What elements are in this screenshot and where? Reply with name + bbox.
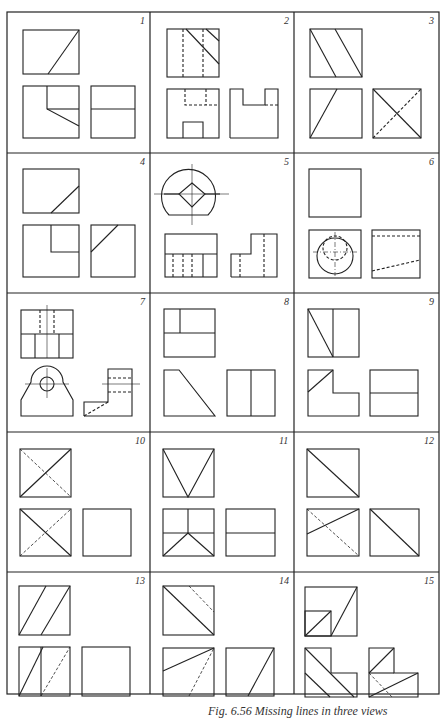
problem-8-drawing xyxy=(164,309,275,416)
cell-number: 4 xyxy=(140,156,145,167)
problem-3-drawing xyxy=(310,29,421,138)
problem-4-drawing xyxy=(23,169,135,277)
problem-14-drawing xyxy=(163,586,274,696)
cell-number: 7 xyxy=(140,296,146,307)
cell-number: 1 xyxy=(140,15,145,26)
problem-2-drawing xyxy=(167,29,278,138)
problem-6-drawing xyxy=(309,169,420,278)
cell-number: 11 xyxy=(279,435,288,446)
problem-15-drawing xyxy=(305,587,418,697)
problem-10-drawing xyxy=(20,449,131,556)
cell-number: 12 xyxy=(424,435,434,446)
cell-number: 8 xyxy=(284,296,289,307)
problem-11-drawing xyxy=(163,449,275,556)
problem-5-drawing xyxy=(154,164,277,277)
cell-number: 13 xyxy=(135,575,145,586)
figure-caption: Fig. 6.56 Missing lines in three views xyxy=(208,704,388,719)
cell-number: 3 xyxy=(428,15,434,26)
cell-number: 10 xyxy=(135,435,145,446)
problem-9-drawing xyxy=(308,309,418,416)
sheet-frame xyxy=(7,12,439,694)
problem-sheet: 1 2 3 4 5 6 7 8 9 10 11 12 13 14 15 xyxy=(0,0,445,723)
problem-13-drawing xyxy=(19,586,130,696)
problem-7-drawing xyxy=(21,305,140,416)
cell-number: 5 xyxy=(284,156,289,167)
cell-number: 9 xyxy=(429,296,434,307)
cell-number: 2 xyxy=(284,15,289,26)
problem-12-drawing xyxy=(307,449,419,556)
cell-number: 14 xyxy=(279,575,289,586)
problem-1-drawing xyxy=(23,30,135,138)
cell-number: 15 xyxy=(424,575,434,586)
cell-number: 6 xyxy=(429,156,434,167)
